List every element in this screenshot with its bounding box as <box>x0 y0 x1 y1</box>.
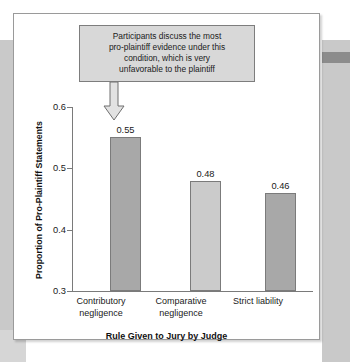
bar-value-label: 0.55 <box>116 125 134 135</box>
bar-comparative-negligence[interactable]: 0.48 <box>190 181 221 291</box>
figure-root: Participants discuss the most pro-plaint… <box>0 0 350 362</box>
y-tick-label: 0.3 <box>53 286 66 296</box>
y-tick-mark <box>67 291 72 292</box>
annotation-line: pro-plaintiff evidence under this <box>86 42 248 53</box>
page-band-right <box>322 40 350 362</box>
bar-value-label: 0.48 <box>196 169 214 179</box>
y-axis-line <box>72 107 73 292</box>
y-axis-title-text: Proportion of Pro-Plaintiff Statements <box>34 121 44 279</box>
figure-card: Participants discuss the most pro-plaint… <box>13 13 320 340</box>
bar-contributory-negligence[interactable]: 0.55 <box>110 137 141 291</box>
plot-area: 0.3 0.4 0.5 0.6 0.55 0.48 0.46 <box>72 107 313 292</box>
page-band-right-accent <box>322 52 350 63</box>
x-tick-label-strict-liability: Strict liability <box>209 296 307 308</box>
bar-strict-liability[interactable]: 0.46 <box>265 193 296 291</box>
annotation-line: condition, which is very <box>86 53 248 64</box>
annotation-line: Participants discuss the most <box>86 31 248 42</box>
y-tick-label: 0.4 <box>53 225 66 235</box>
y-tick-label: 0.6 <box>53 102 66 112</box>
y-axis-title: Proportion of Pro-Plaintiff Statements <box>32 107 46 292</box>
x-axis-line <box>72 291 313 292</box>
y-tick-mark <box>67 230 72 231</box>
x-tick-label-line: Strict liability <box>209 296 307 308</box>
x-tick-label-line: negligence <box>132 308 230 320</box>
bar-value-label: 0.46 <box>271 181 289 191</box>
x-axis-title: Rule Given to Jury by Judge <box>14 331 319 341</box>
y-tick-mark <box>67 107 72 108</box>
y-tick-mark <box>67 168 72 169</box>
annotation-line: unfavorable to the plaintiff <box>86 64 248 75</box>
y-tick-label: 0.5 <box>53 163 66 173</box>
annotation-callout: Participants discuss the most pro-plaint… <box>79 25 255 82</box>
